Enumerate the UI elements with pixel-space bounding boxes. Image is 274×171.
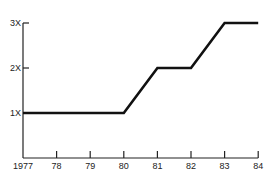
y-axis: 1X2X3X [10, 18, 29, 158]
x-tick-label: 81 [152, 161, 162, 171]
x-tick-label: 84 [253, 161, 263, 171]
x-tick-label: 82 [186, 161, 196, 171]
x-tick-label: 80 [119, 161, 129, 171]
y-tick-label: 1X [10, 108, 21, 118]
x-tick-label: 1977 [13, 161, 33, 171]
x-tick-label: 78 [52, 161, 62, 171]
line-chart: 1X2X3X 197778798081828384 [0, 0, 274, 171]
x-tick-label: 79 [85, 161, 95, 171]
y-tick-label: 3X [10, 18, 21, 28]
chart-svg: 1X2X3X 197778798081828384 [0, 0, 274, 171]
y-tick-label: 2X [10, 63, 21, 73]
x-axis: 197778798081828384 [13, 151, 263, 171]
x-tick-label: 83 [220, 161, 230, 171]
series-line [23, 23, 258, 113]
data-series [23, 23, 258, 113]
